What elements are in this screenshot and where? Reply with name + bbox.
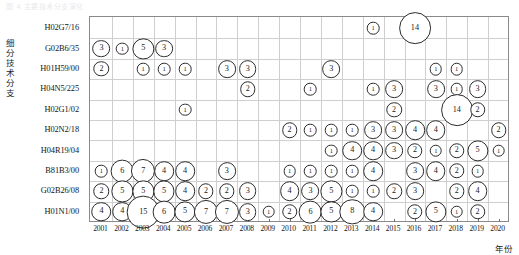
bubble-point: 4 <box>175 182 195 202</box>
bubble-point: 2 <box>282 122 297 137</box>
bubble-value-label: 2 <box>476 208 480 216</box>
bubble-point: 2 <box>491 122 506 137</box>
bubble-value-label: 5 <box>183 208 187 216</box>
x-axis-tick-label: 2011 <box>302 224 316 233</box>
bubble-value-label: 3 <box>476 85 480 93</box>
bubble-value-label: 3 <box>329 65 333 73</box>
bubble-point: 3 <box>322 60 340 78</box>
bubble-value-label: 5 <box>434 208 438 216</box>
y-axis-tick-label: H02N2/18 <box>44 125 79 134</box>
bubble-value-label: 7 <box>141 167 145 175</box>
bubble-point: 2 <box>94 61 109 76</box>
bubble-value-label: 1 <box>372 25 375 32</box>
bubble-value-label: 1 <box>183 107 186 114</box>
y-axis-tick-label: H04R19/04 <box>41 145 79 154</box>
bubble-value-label: 4 <box>371 208 375 216</box>
x-axis-year-labels: 2001200220032004200520062007200820092010… <box>89 224 509 238</box>
bubble-value-label: 2 <box>413 147 417 155</box>
bubble-point: 14 <box>441 94 473 126</box>
bubble-point: 14 <box>399 12 431 44</box>
bubble-value-label: 3 <box>392 126 396 134</box>
y-axis-tick-label: B81B3/00 <box>45 166 79 175</box>
bubble-value-label: 4 <box>183 187 187 195</box>
bubble-point: 5 <box>174 201 195 222</box>
gridline-vertical <box>342 17 343 221</box>
bubble-value-label: 5 <box>120 187 124 195</box>
y-axis-tick-label: H01H59/00 <box>40 64 79 73</box>
bubble-value-label: 1 <box>476 168 479 175</box>
bubble-point: 2 <box>407 143 422 158</box>
bubble-point: 4 <box>175 161 195 181</box>
bubble-point: 1 <box>137 63 150 76</box>
bubble-value-label: 2 <box>246 85 250 93</box>
bubble-point: 1 <box>450 206 463 219</box>
bubble-point: 2 <box>198 184 213 199</box>
bubble-point: 5 <box>467 140 488 161</box>
bubble-point: 2 <box>407 204 422 219</box>
bubble-value-label: 3 <box>434 85 438 93</box>
bubble-point: 2 <box>449 184 464 199</box>
bubble-value-label: 2 <box>455 167 459 175</box>
bubble-value-label: 4 <box>434 126 438 134</box>
bubble-point: 5 <box>425 201 446 222</box>
bubble-point: 5 <box>321 181 342 202</box>
bubble-value-label: 1 <box>309 127 312 134</box>
bubble-value-label: 2 <box>455 187 459 195</box>
x-axis-tick-label: 2007 <box>219 224 233 233</box>
bubble-value-label: 3 <box>371 126 375 134</box>
x-axis-tick-label: 2010 <box>281 224 295 233</box>
bubble-point: 3 <box>427 81 445 99</box>
bubble-point: 1 <box>304 124 317 137</box>
bubble-point: 4 <box>426 120 446 140</box>
x-axis-tick-label: 2012 <box>323 224 337 233</box>
gridline-vertical <box>216 17 217 221</box>
bubble-point: 4 <box>342 141 362 161</box>
bubble-point: 1 <box>158 63 171 76</box>
faint-header-text: 图 4 主要技术分支演化 <box>6 1 84 11</box>
bubble-point: 1 <box>367 22 380 35</box>
bubble-value-label: 4 <box>99 208 103 216</box>
bubble-point: 1 <box>325 165 338 178</box>
bubble-point: 5 <box>154 181 175 202</box>
bubble-point: 1 <box>346 165 359 178</box>
bubble-value-label: 2 <box>392 187 396 195</box>
bubble-point: 3 <box>364 121 382 139</box>
x-axis-tick-label: 2017 <box>428 224 442 233</box>
bubble-value-label: 2 <box>204 187 208 195</box>
bubble-point: 4 <box>363 141 383 161</box>
bubble-point: 3 <box>218 60 236 78</box>
x-axis-tick <box>394 219 395 222</box>
bubble-point: 1 <box>346 185 359 198</box>
gridline-vertical <box>196 17 197 221</box>
gridline-horizontal <box>90 161 508 162</box>
x-axis-tick-label: 2001 <box>93 224 107 233</box>
bubble-value-label: 1 <box>372 86 375 93</box>
bubble-point: 4 <box>405 120 425 140</box>
bubble-point: 3 <box>239 203 257 221</box>
gridline-horizontal <box>90 140 508 141</box>
bubble-value-label: 1 <box>351 127 354 134</box>
bubble-value-label: 2 <box>476 106 480 114</box>
bubble-value-label: 1 <box>163 66 166 73</box>
bubble-value-label: 5 <box>141 44 145 52</box>
bubble-point: 6 <box>299 200 322 223</box>
bubble-point: 2 <box>470 204 485 219</box>
bubble-value-label: 2 <box>497 126 501 134</box>
bubble-point: 2 <box>386 102 401 117</box>
x-axis-tick <box>457 219 458 222</box>
bubble-value-label: 2 <box>99 65 103 73</box>
bubble-value-label: 1 <box>351 188 354 195</box>
bubble-value-label: 1 <box>309 168 312 175</box>
bubble-value-label: 3 <box>99 44 103 52</box>
y-axis-tick-label: H04N5/225 <box>40 84 79 93</box>
bubble-value-label: 4 <box>476 187 480 195</box>
bubble-point: 3 <box>239 183 257 201</box>
bubble-value-label: 1 <box>142 66 145 73</box>
gridline-vertical <box>488 17 489 221</box>
bubble-point: 1 <box>430 63 443 76</box>
bubble-point: 2 <box>386 184 401 199</box>
bubble-value-label: 4 <box>183 167 187 175</box>
x-axis-title: 年份 <box>495 242 513 254</box>
bubble-value-label: 7 <box>204 208 208 216</box>
bubble-value-label: 4 <box>371 146 375 154</box>
